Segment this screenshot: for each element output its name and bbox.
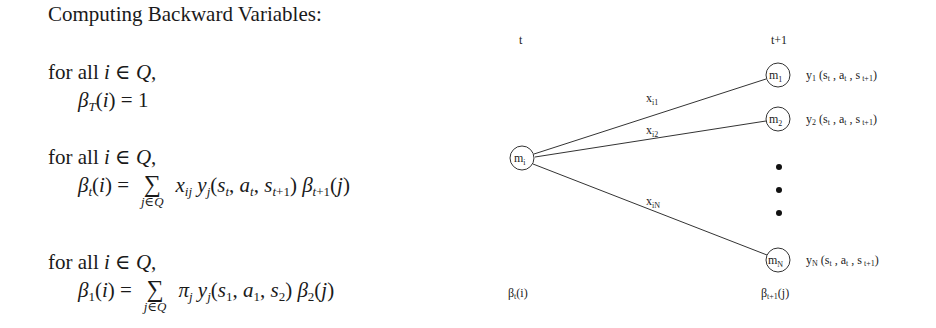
ellipsis-dot xyxy=(776,164,782,170)
svg-text:xi1: xi1 xyxy=(646,91,658,107)
svg-text:y1 (st , at , s t+1): y1 (st , at , s t+1) xyxy=(806,68,877,83)
svg-text:m2: m2 xyxy=(769,112,782,128)
svg-text:xi2: xi2 xyxy=(646,123,658,139)
beta-right-label: βt+1(j) xyxy=(761,286,789,301)
svg-text:m1: m1 xyxy=(769,68,782,84)
ellipsis-dot xyxy=(776,187,782,193)
svg-text:yN (st , at , s t+1): yN (st , at , s t+1) xyxy=(806,253,879,268)
svg-text:mN: mN xyxy=(768,253,783,269)
edge-iN xyxy=(533,164,767,255)
svg-text:mi: mi xyxy=(514,151,526,167)
time-label-t1: t+1 xyxy=(771,33,787,47)
svg-text:xiN: xiN xyxy=(646,194,660,210)
svg-text:y2 (st , at , s t+1): y2 (st , at , s t+1) xyxy=(806,112,877,127)
ellipsis-dot xyxy=(776,210,782,216)
beta-left-label: βt(i) xyxy=(508,286,528,301)
trellis-diagram: t t+1 mi m1 m2 mN xi1 xi2 xiN y1 (st , a… xyxy=(0,0,936,328)
time-label-t: t xyxy=(519,33,523,47)
